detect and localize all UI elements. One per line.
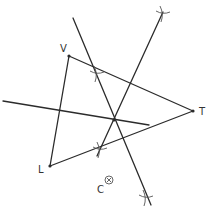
vertex-t-dot <box>191 109 194 112</box>
geometry-diagram: VTL C <box>0 0 209 210</box>
point-c: C <box>97 176 113 195</box>
arc-mark <box>139 195 153 197</box>
vertex-v-dot <box>67 54 70 57</box>
bisector-lv <box>3 101 149 125</box>
edge-tl <box>50 111 193 166</box>
triangle <box>50 56 193 166</box>
edge-vt <box>69 56 193 111</box>
arc-mark <box>143 190 145 206</box>
point-c-label: C <box>97 184 104 195</box>
triangle-vertices: VTL <box>38 43 206 175</box>
perpendicular-bisectors <box>3 12 163 205</box>
vertex-l-dot <box>48 164 51 167</box>
bisector-lt <box>97 12 163 156</box>
vertex-t-label: T <box>198 106 206 117</box>
circumcenter-dot <box>112 118 115 121</box>
vertex-l-label: L <box>38 164 44 175</box>
arc-mark <box>160 6 162 22</box>
vertex-v-label: V <box>60 43 67 54</box>
construction-arc-marks <box>90 6 170 206</box>
arc-mark <box>90 71 104 73</box>
